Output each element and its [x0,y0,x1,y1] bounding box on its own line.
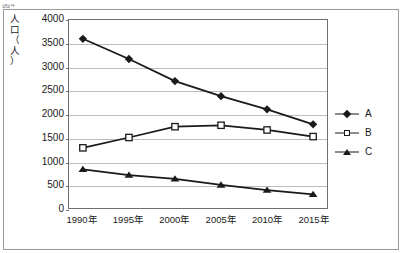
data-point [125,55,133,63]
data-point [171,77,179,85]
y-axis-tick-mark [66,210,69,211]
data-point [310,133,316,139]
y-axis-tick-label: 1500 [42,133,64,143]
data-point [218,122,224,128]
series-layer [69,20,327,208]
figure-caption: 図4 [2,0,15,9]
chart-legend: ABC [334,104,392,161]
legend-label: A [360,109,372,119]
y-axis-tick-label: 4000 [42,14,64,24]
data-point [264,127,270,133]
series-line [83,125,313,148]
data-point [309,120,317,128]
data-point [172,124,178,130]
x-axis-tick-label: 2005年 [206,214,237,226]
series-A [79,35,318,129]
x-axis-tick-label: 2000年 [159,214,190,226]
legend-item-A[interactable]: A [334,104,392,123]
y-axis-tick-label: 0 [58,204,64,214]
plot-area [68,19,328,209]
x-axis-tick-label: 1995年 [113,214,144,226]
legend-label: B [360,128,372,138]
legend-item-C[interactable]: C [334,142,392,161]
y-axis-tick-label: 3500 [42,38,64,48]
x-axis-tick-label: 2010年 [252,214,283,226]
series-C [79,166,318,197]
y-axis-tick-label: 3000 [42,62,64,72]
y-axis-title: 人口（人） [8,14,22,67]
data-point [80,145,86,151]
x-axis-tick-labels: 1990年1995年2000年2005年2010年2015年 [68,214,328,230]
legend-label: C [360,147,372,157]
y-axis-tick-label: 1000 [42,157,64,167]
legend-marker-filled-triangle-icon [334,146,360,158]
data-point [126,134,132,140]
legend-marker-open-square-icon [334,127,360,139]
y-axis-tick-labels: 05001000150020002500300035004000 [22,14,64,214]
y-axis-title-char: ） [8,56,22,67]
legend-item-B[interactable]: B [334,123,392,142]
legend-marker-filled-diamond-icon [334,108,360,120]
y-axis-tick-label: 2000 [42,109,64,119]
y-axis-title-char: 人 [8,14,22,25]
y-axis-title-char: （ [8,35,22,46]
series-line [83,39,313,125]
x-axis-tick-label: 2015年 [298,214,329,226]
y-axis-tick-label: 500 [47,180,64,190]
x-axis-tick-label: 1990年 [66,214,97,226]
series-B [80,122,317,151]
series-line [83,169,313,194]
data-point [263,105,271,113]
y-axis-tick-label: 2500 [42,85,64,95]
data-point [217,92,225,100]
data-point [79,35,87,43]
